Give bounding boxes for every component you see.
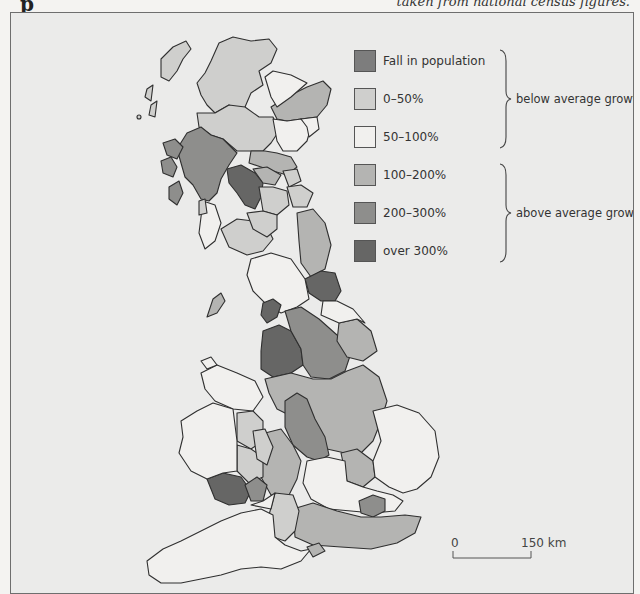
legend-swatch-200-300 xyxy=(354,202,376,224)
map-region xyxy=(297,209,331,277)
legend-swatch-0-50 xyxy=(354,88,376,110)
map-region xyxy=(321,301,365,323)
legend-label: Fall in population xyxy=(383,54,485,68)
legend-swatch-over-300 xyxy=(354,240,376,262)
legend-swatch-50-100 xyxy=(354,126,376,148)
legend-item-over-300: over 300% xyxy=(354,239,448,263)
legend-swatch-fall xyxy=(354,50,376,72)
map-region xyxy=(287,185,313,207)
map-region xyxy=(137,115,141,119)
legend-item-0-50: 0–50% xyxy=(354,87,423,111)
brace-icon-below xyxy=(498,49,512,149)
map-region xyxy=(179,403,237,479)
legend-label: 200–300% xyxy=(383,206,446,220)
legend-swatch-100-200 xyxy=(354,164,376,186)
scale-start-label: 0 xyxy=(451,536,459,550)
scale-bar: 0 150 km xyxy=(449,536,599,566)
map-region xyxy=(261,299,281,323)
map-region xyxy=(199,199,207,215)
legend-item-100-200: 100–200% xyxy=(354,163,446,187)
legend-label: 50–100% xyxy=(383,130,439,144)
map-region xyxy=(169,181,183,205)
legend-label: over 300% xyxy=(383,244,448,258)
map-figure-frame: Fall in population 0–50% 50–100% 100–200… xyxy=(10,12,634,594)
caption-fragment-right: taken from national census figures. xyxy=(397,0,630,9)
map-region xyxy=(161,41,191,81)
map-region xyxy=(283,169,301,187)
map-region xyxy=(145,85,153,101)
scale-end-label: 150 km xyxy=(521,536,566,550)
group-label-below-average: below average growth xyxy=(516,92,634,106)
legend-item-50-100: 50–100% xyxy=(354,125,439,149)
legend-item-fall: Fall in population xyxy=(354,49,485,73)
scale-line-icon xyxy=(449,550,539,560)
brace-icon-above xyxy=(498,163,512,263)
map-region xyxy=(207,293,225,317)
legend-label: 0–50% xyxy=(383,92,423,106)
map-region xyxy=(161,157,177,177)
group-label-above-average: above average growth xyxy=(516,206,634,220)
legend-label: 100–200% xyxy=(383,168,446,182)
legend-item-200-300: 200–300% xyxy=(354,201,446,225)
map-region xyxy=(149,101,157,117)
map-region xyxy=(197,37,277,113)
map-region xyxy=(373,405,439,493)
